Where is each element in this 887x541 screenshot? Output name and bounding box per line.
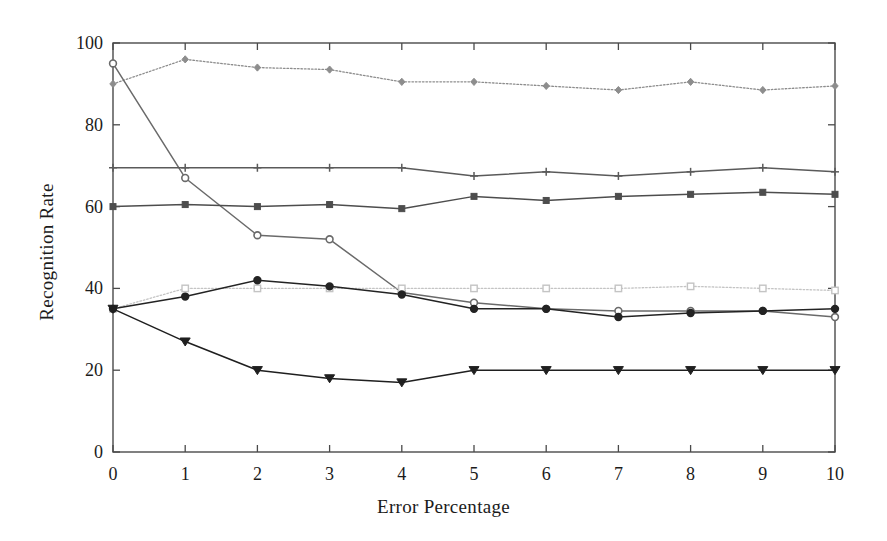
x-tick-label-3: 3	[325, 464, 334, 485]
data-point-diamond	[760, 86, 766, 93]
y-tick-label-20: 20	[55, 360, 103, 381]
data-point-circle	[110, 60, 117, 67]
x-tick-label-9: 9	[758, 464, 767, 485]
data-point-circle	[326, 236, 333, 243]
series-series-flat-60	[110, 189, 838, 211]
data-point-square-open	[254, 285, 260, 291]
x-tick-label-5: 5	[470, 464, 479, 485]
data-point-circle-filled	[832, 305, 839, 312]
x-tick-label-7: 7	[614, 464, 623, 485]
data-point-diamond	[615, 86, 621, 93]
data-point-circle	[182, 175, 189, 182]
data-point-square-open	[760, 285, 766, 291]
chart-plot-area	[0, 0, 887, 541]
data-point-diamond	[832, 82, 838, 89]
data-point-diamond	[326, 66, 332, 73]
y-tick-label-60: 60	[55, 196, 103, 217]
data-point-plus	[398, 164, 406, 172]
x-tick-label-10: 10	[826, 464, 844, 485]
data-point-square	[399, 206, 405, 212]
y-tick-label-40: 40	[55, 278, 103, 299]
y-tick-label-100: 100	[55, 33, 103, 54]
chart-container: Error Percentage Recognition Rate 012345…	[0, 0, 887, 541]
x-tick-label-0: 0	[109, 464, 118, 485]
data-point-circle-filled	[326, 283, 333, 290]
x-tick-label-8: 8	[686, 464, 695, 485]
data-point-square-open	[615, 285, 621, 291]
data-point-plus	[614, 172, 622, 180]
data-point-square	[615, 193, 621, 199]
data-point-diamond	[471, 78, 477, 85]
data-point-plus	[687, 168, 695, 176]
data-point-square-open	[471, 285, 477, 291]
data-point-square	[543, 197, 549, 203]
x-tick-label-2: 2	[253, 464, 262, 485]
data-point-diamond	[254, 64, 260, 71]
data-point-circle-filled	[471, 305, 478, 312]
data-point-diamond	[687, 78, 693, 85]
data-point-square	[254, 204, 260, 210]
data-point-plus	[109, 164, 117, 172]
data-point-circle-filled	[543, 305, 550, 312]
data-series-group	[108, 56, 840, 387]
data-point-plus	[759, 164, 767, 172]
data-point-circle	[832, 314, 839, 321]
y-tick-label-0: 0	[55, 442, 103, 463]
plot-frame	[113, 43, 835, 452]
series-series-flat-70	[109, 164, 839, 180]
data-point-diamond	[182, 56, 188, 63]
series-series-top-dotted	[110, 56, 838, 94]
data-point-diamond	[110, 80, 116, 87]
data-point-circle-filled	[759, 307, 766, 314]
data-point-square	[471, 193, 477, 199]
data-point-circle-filled	[615, 314, 622, 321]
data-point-plus	[470, 172, 478, 180]
data-point-circle-filled	[182, 293, 189, 300]
data-point-square	[327, 202, 333, 208]
x-axis-title: Error Percentage	[0, 496, 887, 518]
data-point-square-open	[687, 283, 693, 289]
data-point-square-open	[182, 285, 188, 291]
data-point-plus	[831, 168, 839, 176]
data-point-diamond	[543, 82, 549, 89]
data-point-square	[182, 202, 188, 208]
data-point-circle-filled	[398, 291, 405, 298]
data-point-square	[688, 191, 694, 197]
data-point-square	[110, 204, 116, 210]
data-point-triangle-down	[180, 338, 190, 346]
data-point-square	[832, 191, 838, 197]
data-point-plus	[253, 164, 261, 172]
data-point-square	[760, 189, 766, 195]
data-point-plus	[181, 164, 189, 172]
axis-ticks	[113, 43, 835, 452]
y-axis-title: Recognition Rate	[36, 122, 58, 382]
x-tick-label-4: 4	[397, 464, 406, 485]
series-series-steep-decline	[110, 60, 839, 320]
data-point-circle	[254, 232, 261, 239]
data-point-square-open	[543, 285, 549, 291]
data-point-plus	[542, 168, 550, 176]
data-point-circle-filled	[687, 310, 694, 317]
data-point-square-open	[832, 287, 838, 293]
data-point-circle-filled	[254, 277, 261, 284]
y-tick-label-80: 80	[55, 114, 103, 135]
data-point-plus	[326, 164, 334, 172]
series-series-triangles-20	[108, 305, 840, 387]
data-point-diamond	[399, 78, 405, 85]
x-tick-label-6: 6	[542, 464, 551, 485]
x-tick-label-1: 1	[181, 464, 190, 485]
